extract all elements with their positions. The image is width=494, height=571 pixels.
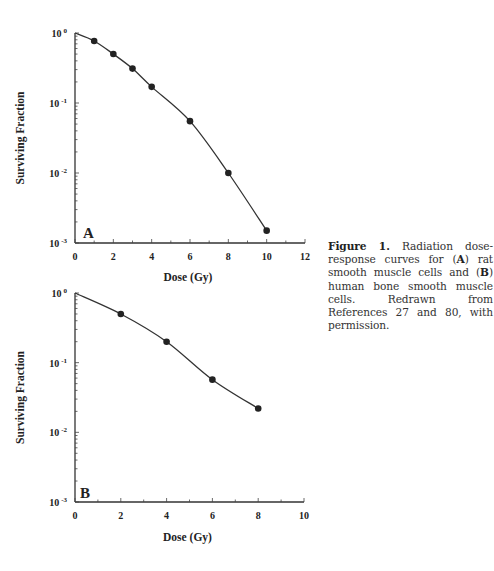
- caption-panel-ref: A: [457, 253, 465, 265]
- y-tick-label: 10-3: [49, 496, 67, 508]
- x-tick-label: 0: [73, 510, 78, 521]
- data-point: [225, 170, 232, 177]
- caption-panel-ref: B: [480, 266, 489, 278]
- data-point: [263, 227, 270, 234]
- y-axis-label: Surviving Fraction: [14, 91, 27, 185]
- panel-label: A: [83, 225, 94, 241]
- x-tick-label: 6: [188, 251, 193, 262]
- x-tick-label: 0: [73, 251, 78, 262]
- data-point: [148, 84, 155, 91]
- survival-curve: [75, 293, 258, 408]
- data-point: [187, 118, 194, 125]
- y-tick-label: 10-3: [49, 237, 67, 249]
- x-axis-label: Dose (Gy): [164, 271, 213, 284]
- y-tick-label: 10-1: [49, 357, 67, 369]
- y-tick-label: 100: [52, 27, 68, 39]
- caption-label: Figure 1.: [328, 240, 390, 252]
- caption-body: Radiation dose-response curves for (A) r…: [328, 240, 493, 331]
- x-tick-label: 4: [164, 510, 169, 521]
- x-tick-label: 10: [299, 510, 309, 521]
- x-tick-label: 2: [111, 251, 116, 262]
- survival-curve: [75, 33, 267, 231]
- x-tick-label: 10: [262, 251, 272, 262]
- y-axis-label: Surviving Fraction: [14, 350, 27, 444]
- x-tick-label: 12: [300, 251, 310, 262]
- data-point: [163, 338, 170, 345]
- data-point: [118, 311, 125, 318]
- x-tick-label: 4: [149, 251, 154, 262]
- data-point: [110, 51, 117, 58]
- data-point: [129, 65, 136, 72]
- y-tick-label: 10-1: [49, 97, 67, 109]
- panel-b-chart: 10010-110-210-30246810Dose (Gy)Surviving…: [14, 287, 309, 544]
- y-tick-label: 100: [52, 287, 68, 299]
- figure-caption: Figure 1. Radiation dose-response curves…: [328, 240, 493, 332]
- x-axis-label: Dose (Gy): [163, 531, 212, 544]
- x-tick-label: 2: [118, 510, 123, 521]
- panel-a-chart: 10010-110-210-3024681012Dose (Gy)Survivi…: [14, 27, 310, 284]
- data-point: [209, 376, 216, 383]
- data-point: [255, 405, 262, 412]
- y-tick-label: 10-2: [49, 167, 67, 179]
- panel-label: B: [80, 485, 90, 501]
- x-tick-label: 6: [210, 510, 215, 521]
- data-point: [91, 38, 98, 45]
- x-tick-label: 8: [256, 510, 261, 521]
- y-tick-label: 10-2: [49, 426, 67, 438]
- x-tick-label: 8: [226, 251, 231, 262]
